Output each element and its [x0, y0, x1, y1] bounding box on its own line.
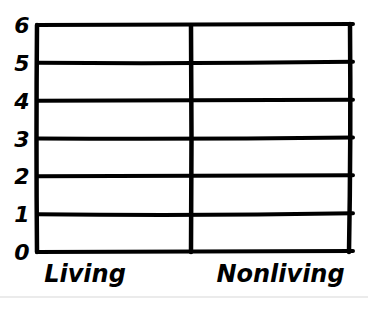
- gridline-2: [37, 175, 353, 176]
- gridline-6: [37, 24, 353, 25]
- y-tick-label: 4: [13, 89, 29, 114]
- y-axis: [37, 25, 38, 252]
- bar-chart-template: 0123456 LivingNonliving: [0, 0, 368, 315]
- y-tick-labels: 0123456: [13, 13, 29, 265]
- gridline-0: [37, 251, 353, 252]
- category-label-living: Living: [44, 260, 126, 288]
- y-tick-label: 3: [14, 127, 29, 152]
- right-border: [349, 24, 350, 252]
- gridlines: [37, 24, 353, 252]
- y-tick-label: 2: [14, 164, 29, 189]
- y-tick-label: 1: [14, 202, 29, 227]
- gridline-4: [37, 100, 353, 101]
- gridline-3: [37, 138, 353, 139]
- category-divider: [191, 26, 192, 252]
- gridline-1: [37, 213, 353, 215]
- gridline-5: [37, 62, 353, 63]
- category-labels: LivingNonliving: [44, 260, 344, 288]
- y-tick-label: 6: [14, 13, 29, 38]
- y-tick-label: 5: [14, 51, 29, 76]
- y-tick-label: 0: [14, 240, 29, 265]
- category-label-nonliving: Nonliving: [216, 260, 344, 288]
